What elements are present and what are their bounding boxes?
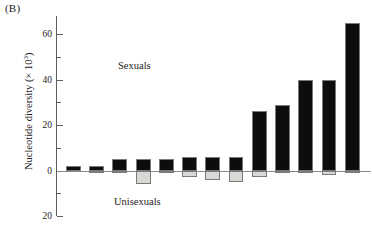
- y-axis-label-text: Nucleotide diversity (× 10: [23, 59, 34, 170]
- bar-unisexuals: [182, 171, 197, 178]
- plot-area: 604020020 Sexuals Unisexuals: [56, 16, 372, 216]
- bar-unisexuals: [89, 171, 104, 173]
- y-axis-label: Nucleotide diversity (× 103): [22, 21, 35, 201]
- bar-unisexuals: [322, 171, 337, 176]
- bar-group: [66, 16, 81, 216]
- bar-group: [205, 16, 220, 216]
- bar-unisexuals: [112, 171, 127, 173]
- bar-sexuals: [298, 80, 313, 171]
- bar-sexuals: [112, 159, 127, 170]
- bar-group: [136, 16, 151, 216]
- panel-label: (B): [5, 2, 20, 14]
- bar-sexuals: [229, 157, 244, 171]
- bar-sexuals: [345, 23, 360, 171]
- bar-group: [182, 16, 197, 216]
- y-tick-mark: [57, 216, 63, 217]
- y-tick-label: 60: [43, 29, 53, 39]
- figure-panel-b: (B) Nucleotide diversity (× 103) 6040200…: [0, 0, 372, 227]
- bar-sexuals: [136, 159, 151, 170]
- y-tick-label: 0: [47, 166, 52, 176]
- bar-unisexuals: [205, 171, 220, 180]
- annotation-sexuals: Sexuals: [118, 60, 151, 71]
- bar-sexuals: [182, 157, 197, 171]
- bar-unisexuals: [159, 171, 174, 173]
- bar-unisexuals: [298, 171, 313, 173]
- bar-unisexuals: [252, 171, 267, 178]
- bar-group: [112, 16, 127, 216]
- y-tick-label: 40: [43, 75, 53, 85]
- bar-group: [345, 16, 360, 216]
- bar-sexuals: [252, 111, 267, 170]
- y-tick-label: 20: [43, 211, 53, 221]
- bar-group: [229, 16, 244, 216]
- bar-unisexuals: [136, 171, 151, 185]
- bar-group: [252, 16, 267, 216]
- y-axis-label-exponent: 3: [22, 56, 30, 60]
- bar-sexuals: [322, 80, 337, 171]
- bar-unisexuals: [345, 171, 360, 173]
- bar-sexuals: [159, 159, 174, 170]
- bar-sexuals: [66, 166, 81, 171]
- bar-group: [275, 16, 290, 216]
- annotation-unisexuals: Unisexuals: [114, 196, 161, 207]
- bar-unisexuals: [275, 171, 290, 173]
- bar-group: [159, 16, 174, 216]
- bar-sexuals: [205, 157, 220, 171]
- bar-group: [322, 16, 337, 216]
- bar-series-container: [56, 16, 372, 216]
- y-axis-label-close: ): [23, 52, 34, 56]
- bar-group: [298, 16, 313, 216]
- y-tick-label: 20: [43, 120, 53, 130]
- bar-sexuals: [275, 105, 290, 171]
- bar-unisexuals: [229, 171, 244, 182]
- bar-group: [89, 16, 104, 216]
